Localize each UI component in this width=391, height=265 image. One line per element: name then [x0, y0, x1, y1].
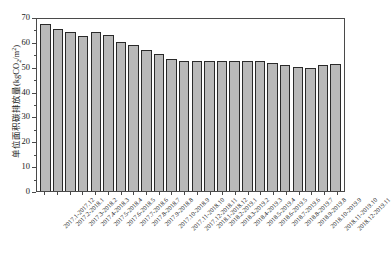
x-tick — [248, 192, 249, 195]
x-tick — [273, 192, 274, 195]
y-axis: 010203040506070 — [0, 18, 36, 192]
y-tick-label: 70 — [22, 12, 31, 23]
x-tick — [57, 192, 58, 195]
bar — [305, 68, 315, 191]
bar — [141, 50, 151, 191]
x-tick — [70, 192, 71, 195]
bar — [179, 61, 189, 191]
bar — [65, 32, 75, 191]
x-tick — [159, 192, 160, 195]
x-tick — [210, 192, 211, 195]
x-tick — [171, 192, 172, 195]
bar — [128, 45, 138, 191]
x-tick — [184, 192, 185, 195]
bar — [229, 61, 239, 191]
bar — [78, 36, 88, 191]
x-tick — [197, 192, 198, 195]
bar — [204, 61, 214, 192]
bar — [293, 67, 303, 191]
y-tick-label: 30 — [22, 111, 31, 122]
y-tick-label: 60 — [22, 37, 31, 48]
x-tick — [235, 192, 236, 195]
x-tick — [337, 192, 338, 195]
x-tick — [44, 192, 45, 195]
plot-area — [36, 18, 345, 192]
y-tick-label: 40 — [22, 87, 31, 98]
x-tick — [311, 192, 312, 195]
bar — [255, 61, 265, 191]
bar — [40, 24, 50, 191]
y-tick-label: 10 — [22, 161, 31, 172]
bar — [330, 64, 340, 191]
x-tick — [286, 192, 287, 195]
x-tick — [222, 192, 223, 195]
x-tick — [299, 192, 300, 195]
bar — [103, 35, 113, 191]
x-tick — [108, 192, 109, 195]
bar — [217, 61, 227, 191]
bars-container — [37, 19, 344, 191]
bar — [91, 32, 101, 191]
bar — [267, 63, 277, 191]
bar — [116, 42, 126, 191]
x-axis-labels: 2017.1-2017.122017.2-2018.12017.3-2018.2… — [36, 196, 345, 265]
bar — [192, 61, 202, 191]
x-tick — [121, 192, 122, 195]
bar — [154, 54, 164, 191]
y-tick-label: 0 — [26, 186, 30, 197]
bar — [318, 65, 328, 191]
x-tick — [82, 192, 83, 195]
x-tick — [95, 192, 96, 195]
y-tick-label: 20 — [22, 136, 31, 147]
bar — [280, 65, 290, 191]
bar — [242, 61, 252, 192]
y-tick-label: 50 — [22, 62, 31, 73]
x-tick — [260, 192, 261, 195]
bar — [166, 59, 176, 191]
x-tick — [146, 192, 147, 195]
x-tick — [324, 192, 325, 195]
x-tick — [133, 192, 134, 195]
bar — [53, 29, 63, 191]
